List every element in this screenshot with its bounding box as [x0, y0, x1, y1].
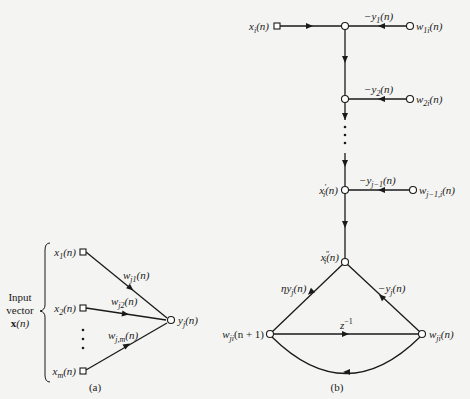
label-gain-y2: −y2(n)	[364, 83, 393, 98]
node-wji	[419, 331, 426, 338]
label-minus-yj: −yj(n)	[378, 282, 406, 297]
node-xdprime	[342, 259, 349, 266]
label-delay: z−1	[339, 317, 353, 331]
label-wj1: wj1(n)	[123, 269, 150, 284]
label-gain-y1: −y1(n)	[364, 10, 393, 25]
label-wj2: wj2(n)	[111, 295, 138, 310]
caption-b: (b)	[331, 381, 344, 394]
label-xi: xi(n)	[248, 20, 269, 35]
figure-b: xi(n) −y1(n) w1i(n) −y2(n) w2i(n) −yj−1(…	[222, 10, 455, 394]
edge-x1-yj	[86, 252, 167, 318]
input-node-x2	[80, 305, 86, 311]
input-vector-label-line2: vector	[6, 304, 34, 316]
source-node-wj1i	[410, 187, 417, 194]
label-wji-next: wji(n + 1)	[222, 328, 264, 343]
figure-a: Input vector x(n) x1(n) x2(n) xm(n) wj1(…	[6, 243, 198, 394]
ellipsis-dot	[82, 347, 85, 350]
signal-flow-diagram: Input vector x(n) x1(n) x2(n) xm(n) wj1(…	[0, 0, 470, 399]
edge-feedback-arc	[272, 337, 420, 374]
arrow-icon	[342, 331, 349, 337]
input-node-xm	[80, 368, 86, 374]
input-node-x1	[80, 249, 86, 255]
ellipsis-dot	[344, 142, 347, 145]
arrow-icon	[342, 221, 348, 228]
ellipsis-dot	[82, 338, 85, 341]
arrow-icon	[342, 160, 348, 167]
arrow-icon	[342, 56, 348, 63]
ellipsis-dot	[344, 126, 347, 129]
arrow-icon	[342, 113, 348, 120]
sum-node-2	[342, 96, 349, 103]
brace-icon	[40, 243, 50, 382]
label-gain-yj1: −yj−1(n)	[359, 174, 396, 189]
input-node-xi	[274, 23, 280, 29]
arrow-icon	[306, 23, 313, 29]
input-vector-label-line1: Input	[8, 291, 31, 303]
sum-node-1	[342, 23, 349, 30]
node-xprime	[342, 187, 349, 194]
label-xprime: x′i(n)	[318, 183, 338, 199]
ellipsis-dot	[82, 329, 85, 332]
label-w1i: w1i(n)	[416, 20, 443, 35]
source-node-w1i	[407, 23, 414, 30]
label-wji: wji(n)	[429, 328, 454, 343]
label-yj: yj(n)	[177, 314, 198, 329]
ellipsis-dot	[344, 134, 347, 137]
label-x2: x2(n)	[53, 302, 76, 317]
source-node-w2i	[407, 96, 414, 103]
label-wj1i: wj−1,i(n)	[419, 184, 455, 199]
node-wji-next	[267, 331, 274, 338]
input-vector-label-line3: x(n)	[11, 317, 30, 330]
output-node-yj	[168, 317, 175, 324]
label-xdprime: x″i(n)	[320, 250, 340, 266]
label-x1: x1(n)	[53, 246, 76, 261]
label-xm: xm(n)	[52, 365, 77, 380]
label-w2i: w2i(n)	[416, 93, 443, 108]
caption-a: (a)	[89, 381, 102, 394]
edge-xdprime-left	[272, 264, 343, 332]
label-eta-yj: ηyj(n)	[281, 282, 307, 297]
